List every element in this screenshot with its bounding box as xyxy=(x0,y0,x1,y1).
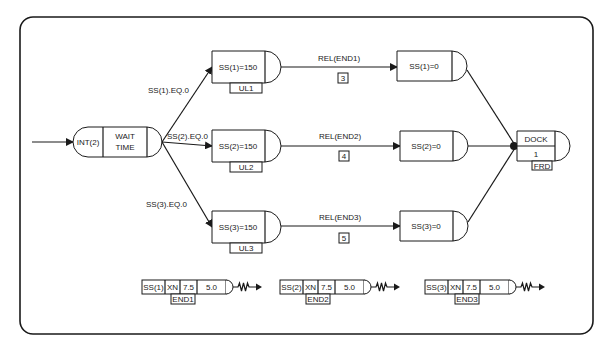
detect-var-3: SS(3) xyxy=(426,283,447,292)
dock-count: 1 xyxy=(534,150,539,159)
reset-node-2[interactable]: SS(2)=0 xyxy=(400,131,468,161)
activity-label-3: REL(END3) xyxy=(319,213,362,222)
wait-time-node[interactable]: INT(2) WAIT TIME xyxy=(73,127,162,157)
activity-number-1: 3 xyxy=(341,74,346,83)
assign-label-3: SS(3)=150 xyxy=(219,223,258,232)
tag-ul2: UL2 xyxy=(239,163,254,172)
tag-end3: END3 xyxy=(456,295,478,304)
tag-ul1: UL1 xyxy=(239,84,254,93)
reset-node-3[interactable]: SS(3)=0 xyxy=(400,211,468,241)
detect-cond-2: XN xyxy=(305,283,316,292)
assign-label-1: SS(1)=150 xyxy=(219,63,258,72)
reset-label-2: SS(2)=0 xyxy=(411,142,441,151)
network-diagram: INT(2) WAIT TIME SS(1).EQ.0 SS(2).EQ.0 S… xyxy=(0,0,610,351)
activity-number-3: 5 xyxy=(342,234,347,243)
time-label: TIME xyxy=(115,143,134,152)
detect-cond-1: XN xyxy=(167,283,178,292)
detect-tol-1: 5.0 xyxy=(206,283,218,292)
tag-end1: END1 xyxy=(172,295,194,304)
branch-condition-1: SS(1).EQ.0 xyxy=(148,86,189,95)
activity-label-1: REL(END1) xyxy=(318,54,361,63)
detect-var-2: SS(2) xyxy=(281,283,302,292)
detect-var-1: SS(1) xyxy=(143,283,164,292)
detect-threshold-2: 7.5 xyxy=(321,283,333,292)
reset-label-1: SS(1)=0 xyxy=(409,62,439,71)
wait-label: WAIT xyxy=(115,132,135,141)
detect-threshold-3: 7.5 xyxy=(466,283,478,292)
detect-tol-3: 5.0 xyxy=(489,283,501,292)
dock-label: DOCK xyxy=(524,135,548,144)
detect-threshold-1: 7.5 xyxy=(183,283,195,292)
tag-end2: END2 xyxy=(307,295,329,304)
branch-condition-2: SS(2).EQ.0 xyxy=(167,132,208,141)
int-label: INT(2) xyxy=(77,138,100,147)
detect-cond-3: XN xyxy=(450,283,461,292)
assign-label-2: SS(2)=150 xyxy=(219,142,258,151)
tag-frd: FRD xyxy=(534,162,551,171)
tag-ul3: UL3 xyxy=(239,244,254,253)
branch-condition-3: SS(3).EQ.0 xyxy=(146,200,187,209)
activity-number-2: 4 xyxy=(342,152,347,161)
detect-tol-2: 5.0 xyxy=(344,283,356,292)
reset-node-1[interactable]: SS(1)=0 xyxy=(397,51,467,81)
reset-label-3: SS(3)=0 xyxy=(411,222,441,231)
activity-label-2: REL(END2) xyxy=(319,132,362,141)
